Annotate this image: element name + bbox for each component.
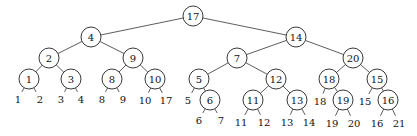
tree-node-12: 12 — [266, 69, 286, 89]
node-label: 7 — [234, 53, 240, 64]
edge-12-13 — [283, 86, 290, 93]
leaf-label-15: 15 — [359, 96, 372, 107]
edge-11-11 — [245, 109, 248, 115]
edge-20-18 — [337, 65, 346, 73]
node-label: 5 — [196, 74, 202, 85]
tree-node-18: 18 — [319, 69, 339, 89]
leaf-label-12: 12 — [258, 117, 271, 128]
node-label: 6 — [207, 95, 213, 106]
edge-11-12 — [257, 109, 260, 115]
leaf-label-5: 5 — [185, 95, 191, 106]
tree-node-8: 8 — [102, 69, 122, 89]
tree-node-2: 2 — [39, 48, 59, 68]
node-label: 3 — [68, 74, 74, 85]
tree-diagram: 1741429720138105121815611131916 12348910… — [0, 0, 417, 136]
leaf-label-21: 21 — [393, 118, 406, 129]
edge-15-15 — [369, 88, 372, 94]
tree-node-11: 11 — [243, 90, 263, 110]
tree-node-9: 9 — [123, 48, 143, 68]
edge-1-1 — [22, 88, 24, 92]
leaf-label-2: 2 — [37, 94, 43, 105]
edge-8-8 — [106, 88, 108, 92]
leaf-label-7: 7 — [218, 115, 224, 126]
edge-18-19 — [335, 87, 338, 91]
edge-3-4 — [75, 88, 77, 92]
edge-6-7 — [215, 109, 217, 113]
node-label: 8 — [109, 74, 115, 85]
nodes-layer: 1741429720138105121815611131916 — [19, 6, 398, 110]
leaf-label-3: 3 — [58, 94, 64, 105]
node-label: 11 — [247, 95, 260, 106]
edge-2-1 — [36, 65, 42, 72]
edge-16-16 — [380, 109, 383, 116]
node-label: 1 — [26, 74, 32, 85]
node-label: 17 — [187, 11, 200, 22]
leaf-label-4: 4 — [78, 94, 84, 105]
edge-17-14 — [203, 18, 286, 35]
edge-8-9 — [117, 88, 119, 92]
leaf-label-17: 17 — [160, 95, 173, 106]
tree-node-4: 4 — [81, 27, 101, 47]
edge-14-20 — [305, 40, 343, 54]
edge-14-7 — [246, 40, 286, 54]
tree-node-20: 20 — [343, 48, 363, 68]
node-label: 10 — [149, 74, 162, 85]
leaf-label-10: 10 — [139, 95, 152, 106]
node-label: 15 — [371, 74, 384, 85]
edge-3-3 — [65, 88, 67, 92]
tree-node-15: 15 — [367, 69, 387, 89]
node-label: 18 — [323, 74, 336, 85]
tree-node-7: 7 — [227, 48, 247, 68]
node-label: 4 — [88, 32, 94, 43]
tree-node-13: 13 — [287, 90, 307, 110]
leaf-label-11: 11 — [235, 117, 248, 128]
edge-12-11 — [260, 86, 268, 94]
tree-node-1: 1 — [19, 69, 39, 89]
tree-node-16: 16 — [378, 90, 398, 110]
node-label: 20 — [347, 53, 360, 64]
edge-1-2 — [34, 88, 36, 92]
leaf-label-1: 1 — [15, 94, 21, 105]
node-label: 12 — [270, 74, 283, 85]
edge-16-21 — [392, 109, 395, 116]
tree-node-14: 14 — [286, 27, 306, 47]
tree-node-5: 5 — [189, 69, 209, 89]
leaf-label-16: 16 — [371, 118, 384, 129]
edge-10-10 — [148, 88, 150, 93]
edge-9-8 — [119, 65, 126, 72]
leaf-label-9: 9 — [120, 94, 126, 105]
edge-5-6 — [204, 88, 206, 91]
tree-node-19: 19 — [333, 90, 353, 110]
node-label: 9 — [130, 53, 136, 64]
node-label: 16 — [382, 95, 395, 106]
edge-19-19 — [335, 109, 338, 116]
edge-4-2 — [58, 41, 82, 53]
node-label: 19 — [337, 95, 350, 106]
leaf-label-14: 14 — [303, 117, 316, 128]
node-label: 13 — [291, 95, 304, 106]
leaf-label-19: 19 — [326, 118, 339, 129]
leaf-label-6: 6 — [196, 115, 202, 126]
tree-node-3: 3 — [61, 69, 81, 89]
edge-18-18 — [323, 88, 325, 93]
node-label: 2 — [46, 53, 52, 64]
edge-4-9 — [100, 41, 124, 53]
tree-node-17: 17 — [183, 6, 203, 26]
leaf-label-8: 8 — [99, 94, 105, 105]
edge-13-14 — [302, 109, 305, 115]
edge-13-13 — [290, 109, 293, 115]
edge-6-6 — [203, 109, 205, 113]
edge-7-5 — [208, 63, 228, 74]
leaf-label-18: 18 — [314, 96, 327, 107]
node-label: 14 — [290, 32, 303, 43]
edge-9-10 — [140, 65, 148, 72]
tree-node-10: 10 — [145, 69, 165, 89]
edge-20-15 — [361, 65, 370, 73]
edge-19-20 — [347, 109, 350, 116]
tree-canvas: 1741429720138105121815611131916 12348910… — [0, 0, 417, 136]
edge-2-3 — [56, 65, 64, 72]
leaf-label-20: 20 — [348, 118, 361, 129]
edge-7-12 — [246, 63, 267, 75]
edge-15-16 — [382, 88, 384, 91]
edge-17-4 — [101, 18, 183, 35]
